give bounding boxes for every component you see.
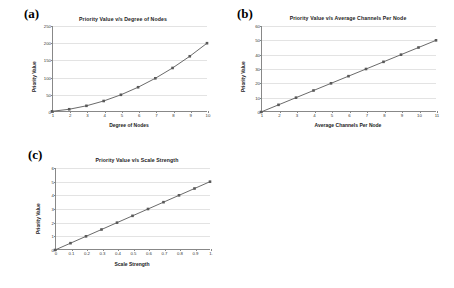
x-tick-label: 1 — [52, 113, 54, 118]
x-tick-label: 6 — [138, 113, 140, 118]
x-tick-label: 4 — [103, 113, 105, 118]
panel-a-ylabel: Priority Value — [32, 61, 37, 92]
data-point-marker — [382, 61, 385, 64]
data-point-marker — [400, 53, 403, 56]
x-tick-label: 7 — [366, 113, 368, 118]
x-tick-label: 5 — [331, 113, 333, 118]
x-tick-label: 3 — [296, 113, 298, 118]
data-point-marker — [131, 215, 134, 218]
y-tick-label: 250 — [44, 24, 51, 29]
data-point-marker — [51, 110, 54, 113]
data-point-marker — [365, 68, 368, 71]
panel-a-letter: (a) — [24, 6, 39, 22]
x-tick-label: 0.1 — [69, 251, 75, 256]
data-point-marker — [171, 67, 174, 70]
y-tick-label: 2 — [52, 220, 54, 225]
data-point-marker — [100, 228, 103, 231]
y-tick-label: 40 — [255, 52, 260, 57]
y-tick-label: 60 — [255, 24, 260, 29]
data-point-marker — [188, 55, 191, 58]
data-point-marker — [193, 187, 196, 190]
panel-a: (a) Priority Value v/s Degree of Nodes P… — [0, 0, 227, 144]
series-line — [52, 43, 207, 111]
data-point-marker — [147, 208, 150, 211]
y-tick-label: 200 — [44, 41, 51, 46]
y-tick-label: 0 — [49, 110, 51, 115]
data-point-marker — [260, 111, 263, 114]
x-tick-label: 1. — [209, 251, 213, 256]
data-point-marker — [154, 77, 157, 80]
x-tick-label: 0.2 — [84, 251, 90, 256]
panel-b-title: Priority Value v/s Average Channels Per … — [253, 15, 443, 21]
panel-b-xlabel: Average Channels Per Node — [288, 122, 408, 128]
x-tick-label: 10 — [417, 113, 422, 118]
x-tick-label: 2 — [69, 113, 71, 118]
data-point-marker — [120, 94, 123, 97]
x-tick-label: 0.8 — [177, 251, 183, 256]
y-tick-label: 50 — [255, 38, 260, 43]
y-tick-label: 1 — [52, 234, 54, 239]
data-point-marker — [435, 39, 438, 42]
data-point-marker — [69, 242, 72, 245]
y-tick-label: 0 — [52, 248, 54, 253]
panel-b: (b) Priority Value v/s Average Channels … — [227, 0, 454, 144]
panel-c-title: Priority Value v/s Scale Strength — [72, 157, 202, 163]
data-point-marker — [116, 221, 119, 224]
figure-canvas: (a) Priority Value v/s Degree of Nodes P… — [0, 0, 454, 288]
x-tick-label: 0 — [55, 251, 57, 256]
x-tick-label: 2 — [278, 113, 280, 118]
panel-c-ylabel: Priority Value — [36, 203, 41, 234]
x-tick-label: 9 — [190, 113, 192, 118]
panel-a-title: Priority Value v/s Degree of Nodes — [48, 16, 198, 22]
y-tick-label: 20 — [255, 81, 260, 86]
x-tick-label: 8 — [383, 113, 385, 118]
data-point-marker — [312, 89, 315, 92]
data-point-marker — [178, 194, 181, 197]
x-tick-label: 4 — [313, 113, 315, 118]
data-point-marker — [137, 86, 140, 89]
panel-b-letter: (b) — [237, 6, 253, 22]
x-tick-label: 0.3 — [100, 251, 106, 256]
data-point-marker — [206, 42, 209, 45]
data-point-marker — [347, 75, 350, 78]
x-tick-label: 0.4 — [115, 251, 121, 256]
y-tick-label: 0 — [258, 110, 260, 115]
x-tick-label: 0.6 — [146, 251, 152, 256]
x-tick-label: 10 — [206, 113, 211, 118]
x-tick-label: 3 — [86, 113, 88, 118]
panel-b-plot-area: 01020304050601234567891011 — [261, 26, 436, 112]
panel-c-series — [55, 168, 210, 250]
panel-c-plot-area: 012345600.10.20.30.40.50.60.70.80.91. — [55, 168, 210, 250]
x-tick-label: 9 — [401, 113, 403, 118]
y-tick-label: 5 — [52, 179, 54, 184]
y-tick-label: 100 — [44, 75, 51, 80]
data-point-marker — [295, 96, 298, 99]
data-point-marker — [162, 201, 165, 204]
data-point-marker — [54, 249, 57, 252]
y-tick-label: 10 — [255, 95, 260, 100]
panel-b-series — [261, 26, 436, 112]
x-tick-label: 11 — [435, 113, 439, 118]
panel-a-series — [52, 26, 207, 112]
data-point-marker — [277, 104, 280, 107]
x-tick-label: 0.9 — [193, 251, 199, 256]
y-tick-label: 50 — [46, 92, 51, 97]
panel-b-ylabel: Priority Value — [241, 61, 246, 92]
x-tick-label: 7 — [155, 113, 157, 118]
x-tick-label: 1 — [261, 113, 263, 118]
panel-c-letter: (c) — [28, 147, 42, 163]
y-tick-label: 6 — [52, 166, 54, 171]
panel-a-xlabel: Degree of Nodes — [79, 122, 179, 128]
y-tick-label: 4 — [52, 193, 54, 198]
panel-a-plot-area: 05010015020025012345678910 — [52, 26, 207, 112]
data-point-marker — [330, 82, 333, 85]
data-point-marker — [102, 100, 105, 103]
panel-c-xlabel: Scale Strength — [82, 261, 182, 267]
y-tick-label: 3 — [52, 207, 54, 212]
panel-c: (c) Priority Value v/s Scale Strength Pr… — [0, 144, 260, 288]
data-point-marker — [85, 235, 88, 238]
x-tick-label: 0.5 — [131, 251, 137, 256]
x-tick-label: 8 — [172, 113, 174, 118]
data-point-marker — [417, 46, 420, 49]
y-tick-label: 30 — [255, 67, 260, 72]
